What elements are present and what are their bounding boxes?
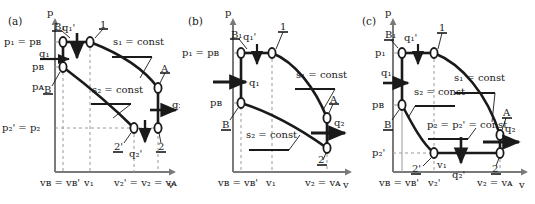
p-axis-arrowhead bbox=[390, 18, 397, 25]
node-label-2: 2 bbox=[492, 163, 498, 174]
v-axis-label: v bbox=[342, 179, 349, 190]
xtick-v1: v₁ bbox=[265, 177, 276, 188]
xtick-v2p-v2-vA: v₂' = v₂ = vᴀ bbox=[113, 177, 177, 188]
node-A bbox=[154, 83, 161, 93]
inner-xtick-v1: v₁ bbox=[436, 159, 447, 170]
node-label-2: 2 bbox=[318, 154, 324, 165]
v-axis-arrowhead bbox=[521, 169, 528, 176]
p2-const-label: p₂ = p₂' = const bbox=[427, 119, 507, 130]
node-2 bbox=[323, 143, 330, 153]
s1-const-label: s₁ = const bbox=[454, 72, 505, 83]
node-2prime bbox=[130, 123, 137, 133]
v-axis-arrowhead bbox=[345, 169, 352, 176]
ytick-p2p: p₂' bbox=[372, 147, 385, 158]
q2-label: q₂ bbox=[334, 117, 344, 128]
isentrope-s2-curve bbox=[63, 67, 134, 128]
leader-2prime bbox=[124, 133, 131, 143]
ytick-p1-pB: p₁ = pʙ bbox=[4, 36, 42, 47]
ytick-pB: pʙ bbox=[210, 97, 222, 108]
ytick-p1-pB: p₁ = pʙ bbox=[182, 47, 220, 58]
q1-label: q₁ bbox=[381, 67, 391, 78]
s2-const-label: s₂ = const bbox=[414, 86, 465, 97]
node-1 bbox=[430, 48, 437, 58]
xtick-vB-vBp: vʙ = vʙ' bbox=[217, 177, 258, 188]
panel-a: (a) p v q₁' q₁ q₂ bbox=[0, 0, 180, 204]
panel-tag: (b) bbox=[188, 15, 203, 27]
q1prime-label: q₁' bbox=[404, 32, 417, 43]
s1-const-label: s₁ = const bbox=[296, 69, 347, 80]
leader-1 bbox=[95, 29, 103, 38]
node-label-B1: B₁ bbox=[385, 29, 396, 40]
node-label-2prime: 2' bbox=[114, 141, 123, 152]
p-axis-label: p bbox=[385, 7, 391, 18]
leader-1 bbox=[438, 33, 442, 49]
panel-tag: (c) bbox=[362, 15, 376, 27]
q1-label: q₁ bbox=[39, 48, 49, 59]
leader-2prime bbox=[423, 158, 431, 166]
isentrope-s1-curve bbox=[272, 53, 327, 118]
panel-c-canvas: (c) p v q₁' q₁ q₂ q₂' B₁ bbox=[358, 0, 535, 204]
panel-a-canvas: (a) p v q₁' q₁ q₂ bbox=[0, 0, 180, 204]
ytick-pA: pᴀ bbox=[32, 81, 44, 92]
node-B bbox=[398, 100, 405, 110]
node-B1 bbox=[59, 37, 66, 47]
ytick-p1: p₁ bbox=[375, 47, 385, 58]
node-label-2prime: 2' bbox=[412, 163, 421, 174]
node-label-1: 1 bbox=[439, 22, 445, 33]
panel-tag: (a) bbox=[8, 15, 22, 27]
node-1 bbox=[86, 37, 93, 47]
q1prime-label: q₁' bbox=[243, 31, 256, 42]
s1-const-label: s₁ = const bbox=[113, 36, 164, 47]
xtick-v2-vA: v₂ = vᴀ bbox=[476, 177, 513, 188]
s2-const-label: s₂ = const bbox=[92, 84, 143, 95]
node-B1 bbox=[237, 48, 244, 58]
node-A bbox=[323, 113, 330, 123]
node-label-B: B bbox=[384, 119, 391, 130]
panel-b-canvas: (b) p v q₁' q₁ q₂ B₁ 1 B bbox=[180, 0, 358, 204]
s2-const-label: s₂ = const bbox=[246, 129, 297, 140]
q2-label: q₂ bbox=[172, 99, 180, 110]
node-1 bbox=[268, 48, 275, 58]
q2prime-label: q₂' bbox=[129, 148, 142, 159]
node-2 bbox=[496, 148, 503, 158]
pv-diagram-figure: (a) p v q₁' q₁ q₂ bbox=[0, 0, 535, 204]
leader-1 bbox=[276, 32, 283, 49]
v-axis-arrowhead bbox=[169, 169, 176, 176]
isentrope-s2-curve bbox=[241, 103, 327, 148]
v-axis-label: v bbox=[518, 179, 525, 190]
ytick-p2p-p2: p₂' = p₂ bbox=[2, 122, 40, 133]
q2prime-label: q₂' bbox=[452, 169, 465, 180]
node-label-A: A bbox=[502, 107, 511, 118]
xtick-vB-vBp: vʙ = vʙ' bbox=[39, 177, 80, 188]
xtick-v1: v₁ bbox=[83, 177, 94, 188]
q1-label: q₁ bbox=[249, 77, 259, 88]
node-2prime bbox=[430, 148, 437, 158]
node-B1 bbox=[398, 48, 405, 58]
ytick-pB: pʙ bbox=[372, 99, 384, 110]
node-2 bbox=[154, 123, 161, 133]
ytick-pB: pʙ bbox=[32, 61, 44, 72]
node-label-2: 2 bbox=[158, 141, 164, 152]
xtick-vB-vBp: vʙ = vʙ' bbox=[378, 177, 419, 188]
node-B bbox=[59, 62, 66, 72]
s2-leader bbox=[408, 106, 415, 118]
p-axis-arrowhead bbox=[230, 18, 237, 25]
xtick-v2p: v₂' bbox=[427, 177, 440, 188]
xtick-v2-vA: v₂ = vᴀ bbox=[304, 177, 341, 188]
leader-A bbox=[329, 104, 333, 113]
p-axis-label: p bbox=[47, 7, 53, 18]
p-axis-label: p bbox=[225, 7, 231, 18]
node-A bbox=[496, 130, 503, 140]
leader-A bbox=[160, 73, 165, 83]
panel-c: (c) p v q₁' q₁ q₂ q₂' B₁ bbox=[358, 0, 535, 204]
node-B bbox=[237, 98, 244, 108]
panel-b: (b) p v q₁' q₁ q₂ B₁ 1 B bbox=[180, 0, 358, 204]
node-label-B: B bbox=[222, 119, 229, 130]
node-label-1: 1 bbox=[280, 21, 286, 32]
